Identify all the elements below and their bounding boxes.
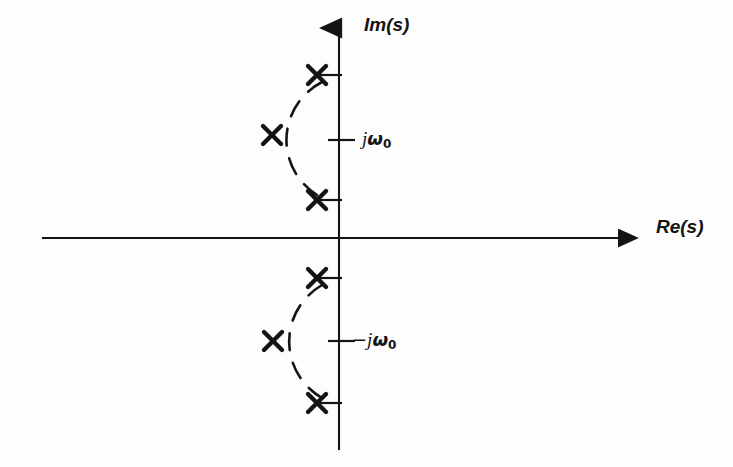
upper-dashed-arc: [286, 82, 322, 198]
pole-marker-lower-2: [264, 332, 282, 350]
s-plane-pole-diagram: Im(s) Re(s) jω0 −jω0: [0, 0, 733, 467]
plane-drawing: [0, 0, 733, 467]
tick-label-subscript-positive: 0: [383, 137, 391, 151]
tick-label-minus-sign: −: [352, 329, 367, 350]
imaginary-axis-label: Im(s): [364, 14, 409, 36]
tick-label-omega-negative: ω: [372, 329, 388, 350]
tick-label-subscript-negative: 0: [388, 338, 396, 352]
tick-label-positive-omega-zero: jω0: [362, 128, 391, 151]
tick-label-negative-omega-zero: −jω0: [352, 329, 396, 352]
real-axis-label: Re(s): [656, 216, 704, 238]
lower-dashed-arc: [289, 285, 322, 398]
tick-label-omega-positive: ω: [367, 128, 383, 149]
pole-marker-upper-2: [263, 126, 281, 144]
